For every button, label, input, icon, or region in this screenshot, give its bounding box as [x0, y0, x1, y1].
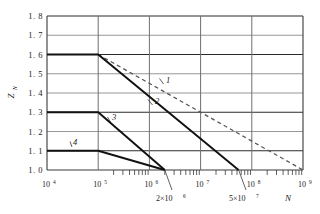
annotation-2e6-exponent: 6 — [183, 193, 186, 199]
zn-life-factor-chart: 1 2 3 4 1. 8 1. 7 1. 6 1. 5 1. 4 1. 3 1.… — [0, 0, 320, 214]
curve-label-3: 3 — [111, 112, 116, 122]
annotation-5e7-mantissa: 5×10 — [229, 194, 246, 203]
annotation-2e6-mantissa: 2×10 — [156, 194, 173, 203]
annotation-5e7-exponent: 7 — [256, 193, 259, 199]
x-tick-1e8-mantissa: 10 — [247, 180, 255, 189]
x-tick-1e5-mantissa: 10 — [93, 180, 101, 189]
x-axis-title: N — [284, 193, 292, 203]
y-axis-title-sub: N — [12, 86, 18, 91]
x-tick-1e6-exponent: 6 — [155, 179, 158, 185]
y-tick-1.7: 1. 7 — [28, 30, 43, 40]
y-tick-1.2: 1. 2 — [28, 127, 43, 137]
x-tick-1e6-mantissa: 10 — [144, 180, 152, 189]
y-tick-1.0: 1. 0 — [28, 165, 43, 175]
y-tick-1.8: 1. 8 — [28, 11, 43, 21]
x-tick-1e8-exponent: 8 — [258, 179, 261, 185]
chart-container: 1 2 3 4 1. 8 1. 7 1. 6 1. 5 1. 4 1. 3 1.… — [0, 0, 320, 214]
y-tick-1.5: 1. 5 — [28, 69, 43, 79]
x-tick-1e7-exponent: 7 — [207, 179, 210, 185]
y-tick-1.3: 1. 3 — [28, 107, 43, 117]
y-tick-1.6: 1. 6 — [28, 50, 43, 60]
x-tick-1e9-exponent: 9 — [309, 179, 312, 185]
curve-label-1: 1 — [166, 75, 170, 85]
x-tick-1e7-mantissa: 10 — [196, 180, 204, 189]
y-tick-1.4: 1. 4 — [28, 88, 43, 98]
x-tick-1e9-mantissa: 10 — [298, 180, 306, 189]
x-tick-1e5-exponent: 5 — [104, 179, 107, 185]
y-axis-tick-labels: 1. 8 1. 7 1. 6 1. 5 1. 4 1. 3 1. 2 1. 1 … — [28, 11, 43, 175]
x-tick-1e4-exponent: 4 — [53, 179, 56, 185]
x-tick-1e4-mantissa: 10 — [42, 180, 50, 189]
y-tick-1.1: 1. 1 — [28, 146, 43, 156]
